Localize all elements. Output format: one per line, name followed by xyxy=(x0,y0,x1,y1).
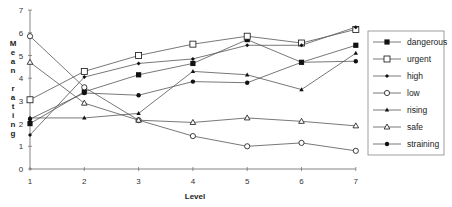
y-axis-title-letter: e xyxy=(11,48,16,57)
axes: 012345671234567 xyxy=(19,6,359,186)
y-tick-label: 1 xyxy=(19,142,24,151)
legend-label: straining xyxy=(407,139,439,149)
data-point xyxy=(244,33,250,39)
data-point xyxy=(190,133,195,138)
data-point xyxy=(191,79,195,83)
data-point xyxy=(136,111,140,115)
data-point xyxy=(353,148,358,153)
legend-marker-icon xyxy=(384,90,389,95)
y-axis-title: Meanrating xyxy=(10,39,17,138)
x-tick-label: 4 xyxy=(191,177,196,186)
y-tick-label: 2 xyxy=(19,120,24,129)
x-axis-title: Level xyxy=(185,192,205,201)
data-point xyxy=(245,144,250,149)
y-axis-title-letter: i xyxy=(12,111,14,120)
legend-label: high xyxy=(407,71,423,81)
data-point xyxy=(27,97,33,103)
data-point xyxy=(27,121,32,126)
data-point xyxy=(82,100,88,105)
legend-marker-icon xyxy=(384,56,390,62)
data-point xyxy=(28,117,32,121)
legend-marker-icon xyxy=(385,142,389,146)
y-axis-title-letter: n xyxy=(11,120,16,129)
y-axis-title-letter: a xyxy=(11,57,16,66)
y-tick-label: 7 xyxy=(19,6,24,15)
data-point xyxy=(137,61,141,65)
x-tick-label: 7 xyxy=(354,177,359,186)
legend-label: safe xyxy=(407,122,423,132)
legend-marker-icon xyxy=(384,39,389,44)
x-tick-label: 5 xyxy=(245,177,250,186)
y-axis-title-letter: n xyxy=(11,66,16,75)
data-point xyxy=(353,43,358,48)
data-point xyxy=(191,57,195,61)
data-point xyxy=(244,115,250,120)
series-straining xyxy=(28,59,358,121)
y-axis-title-letter: g xyxy=(11,129,16,138)
legend-label: rising xyxy=(407,105,428,115)
data-point xyxy=(190,41,196,47)
y-tick-label: 5 xyxy=(19,52,24,61)
y-axis-title-letter: M xyxy=(10,39,17,48)
data-point xyxy=(81,68,87,74)
data-point xyxy=(299,140,304,145)
y-tick-label: 4 xyxy=(19,74,24,83)
line-chart: Meanrating 012345671234567 dangerousurge… xyxy=(0,0,452,207)
series-low xyxy=(27,34,358,154)
data-point xyxy=(245,81,249,85)
x-tick-label: 2 xyxy=(82,177,87,186)
legend: dangerousurgenthighlowrisingsafestrainin… xyxy=(368,31,447,155)
data-point xyxy=(82,91,86,95)
data-point xyxy=(82,85,87,90)
data-point xyxy=(354,51,358,55)
y-axis-title-letter: r xyxy=(11,84,14,93)
data-point xyxy=(136,93,140,97)
y-axis-title-letter: t xyxy=(12,102,15,111)
data-point xyxy=(245,43,249,47)
data-point xyxy=(27,34,32,39)
x-tick-label: 6 xyxy=(299,177,304,186)
data-point xyxy=(191,69,195,73)
y-tick-label: 3 xyxy=(19,97,24,106)
data-point xyxy=(190,61,195,66)
x-tick-label: 3 xyxy=(136,177,141,186)
legend-label: dangerous xyxy=(407,37,447,47)
y-tick-label: 6 xyxy=(19,29,24,38)
y-tick-label: 0 xyxy=(19,165,24,174)
x-tick-label: 1 xyxy=(28,177,33,186)
data-point xyxy=(299,60,303,64)
data-point xyxy=(136,53,142,59)
data-point xyxy=(354,59,358,63)
legend-label: urgent xyxy=(407,54,432,64)
data-point xyxy=(136,72,141,77)
legend-label: low xyxy=(407,88,421,98)
data-point xyxy=(27,59,33,64)
series-lines xyxy=(27,25,359,153)
y-axis-title-letter: a xyxy=(11,93,16,102)
